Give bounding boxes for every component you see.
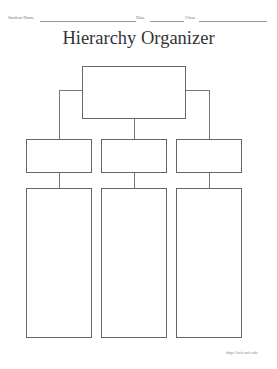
student-name-field[interactable] xyxy=(40,21,136,22)
middle-box-3[interactable] xyxy=(176,139,242,173)
connector-2-down xyxy=(134,173,135,188)
connector-center-vertical xyxy=(134,119,135,139)
connector-left-vertical xyxy=(59,90,60,139)
connector-1-down xyxy=(59,173,60,188)
top-box[interactable] xyxy=(82,66,186,119)
bottom-box-3[interactable] xyxy=(176,188,242,338)
date-label: Date xyxy=(136,15,145,20)
connector-left-horizontal xyxy=(59,90,82,91)
middle-box-2[interactable] xyxy=(101,139,167,173)
page-title: Hierarchy Organizer xyxy=(0,28,277,49)
bottom-box-2[interactable] xyxy=(101,188,167,338)
student-name-label: Student Name xyxy=(8,15,34,20)
class-label: Class xyxy=(185,15,195,20)
connector-3-down xyxy=(209,173,210,188)
connector-right-vertical xyxy=(209,90,210,139)
middle-box-1[interactable] xyxy=(26,139,92,173)
date-field[interactable] xyxy=(150,21,184,22)
class-field[interactable] xyxy=(199,21,267,22)
connector-right-horizontal xyxy=(186,90,209,91)
bottom-box-1[interactable] xyxy=(26,188,92,338)
footer-url: http://fcit.usf.edu xyxy=(226,350,258,355)
header-fields: Student Name Date Class xyxy=(8,13,270,23)
